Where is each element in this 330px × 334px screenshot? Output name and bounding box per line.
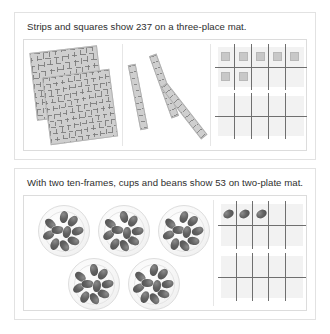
upper-ten-frame xyxy=(221,204,303,246)
card-two-plate-mat: With two ten-frames, cups and beans show… xyxy=(14,168,316,320)
panel-two-plate-mat xyxy=(23,195,307,311)
cup-of-ten-beans xyxy=(98,205,150,257)
flat-gridlines xyxy=(43,70,117,144)
panel-three-place-mat xyxy=(23,39,307,151)
unit-square xyxy=(221,52,230,61)
ten-frame-hline xyxy=(215,116,307,117)
cup-of-ten-beans xyxy=(68,258,120,310)
card-three-place-mat: Strips and squares show 237 on a three-p… xyxy=(14,12,316,160)
hundred-square-flat xyxy=(42,69,118,145)
unit-square xyxy=(256,52,265,61)
ten-strip-rod xyxy=(128,64,148,130)
region-hundreds xyxy=(24,40,122,150)
cup-of-ten-beans xyxy=(38,205,90,257)
ten-frame-hline xyxy=(218,277,306,278)
caption-three-place-mat: Strips and squares show 237 on a three-p… xyxy=(27,21,247,33)
loose-bean xyxy=(255,208,268,220)
ten-frame-hline xyxy=(218,225,306,226)
lower-ten-frame xyxy=(221,256,303,298)
rod-segments xyxy=(129,65,147,129)
unit-square xyxy=(290,52,299,61)
ten-strip-rod xyxy=(161,83,208,140)
loose-bean xyxy=(238,208,251,220)
bean xyxy=(92,279,101,291)
upper-ten-frame xyxy=(218,47,304,87)
caption-two-plate-mat: With two ten-frames, cups and beans show… xyxy=(27,177,303,189)
loose-bean xyxy=(222,208,235,220)
cup-of-ten-beans xyxy=(128,258,180,310)
bean xyxy=(123,227,131,239)
ten-frame-hline xyxy=(215,67,307,68)
unit-square xyxy=(273,52,282,61)
lower-ten-frame xyxy=(218,96,304,136)
region-ones xyxy=(210,40,306,150)
region-tens xyxy=(24,196,213,310)
bean xyxy=(82,280,94,288)
cup-of-ten-beans xyxy=(158,205,210,257)
region-tens xyxy=(122,40,210,150)
diagram-root: Strips and squares show 237 on a three-p… xyxy=(0,0,330,334)
unit-square xyxy=(221,72,230,81)
unit-square xyxy=(239,52,248,61)
region-ones xyxy=(213,196,306,310)
unit-square xyxy=(239,72,248,81)
